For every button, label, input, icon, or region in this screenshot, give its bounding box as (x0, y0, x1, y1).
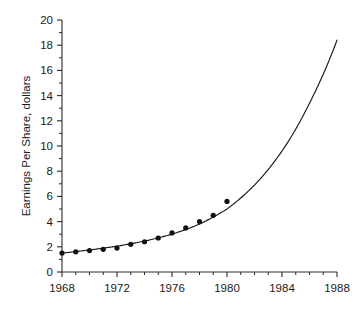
x-tick-label-1984: 1984 (269, 282, 295, 294)
x-tick-label-1972: 1972 (104, 282, 130, 294)
y-axis-title: Earnings Per Share, dollars (20, 75, 32, 216)
y-tick-label-8: 8 (47, 165, 53, 177)
data-point-1979 (211, 213, 216, 218)
y-tick-label-0: 0 (47, 266, 53, 278)
y-tick-label-6: 6 (47, 190, 53, 202)
y-tick-label-14: 14 (40, 90, 53, 102)
y-tick-label-2: 2 (47, 241, 53, 253)
y-tick-label-10: 10 (40, 140, 53, 152)
chart-canvas: 02468101214161820 1968197219761980198419… (0, 0, 364, 319)
data-point-1980 (224, 199, 229, 204)
x-tick-label-1968: 1968 (49, 282, 75, 294)
plot-area (59, 40, 337, 256)
y-axis-ticks (57, 20, 62, 272)
chart-figure: 02468101214161820 1968197219761980198419… (0, 0, 364, 319)
y-axis: 02468101214161820 (40, 14, 62, 278)
x-axis-tick-labels: 196819721976198019841988 (49, 282, 350, 294)
x-axis: 196819721976198019841988 (49, 272, 350, 294)
y-tick-label-12: 12 (40, 115, 53, 127)
y-tick-label-20: 20 (40, 14, 53, 26)
data-point-1978 (197, 219, 202, 224)
y-axis-tick-labels: 02468101214161820 (40, 14, 53, 278)
data-point-1974 (142, 239, 147, 244)
x-tick-label-1976: 1976 (159, 282, 185, 294)
data-point-1968 (59, 251, 64, 256)
y-tick-label-18: 18 (40, 39, 53, 51)
x-tick-label-1980: 1980 (214, 282, 240, 294)
x-axis-ticks (62, 272, 337, 277)
data-point-1971 (101, 247, 106, 252)
data-point-1972 (114, 245, 119, 250)
data-point-1976 (169, 230, 174, 235)
data-point-1977 (183, 225, 188, 230)
data-point-1975 (156, 235, 161, 240)
data-point-1969 (73, 249, 78, 254)
x-tick-label-1988: 1988 (324, 282, 350, 294)
data-point-group (59, 199, 229, 256)
y-tick-label-16: 16 (40, 64, 53, 76)
data-point-1970 (87, 248, 92, 253)
y-tick-label-4: 4 (47, 216, 54, 228)
data-point-1973 (128, 242, 133, 247)
